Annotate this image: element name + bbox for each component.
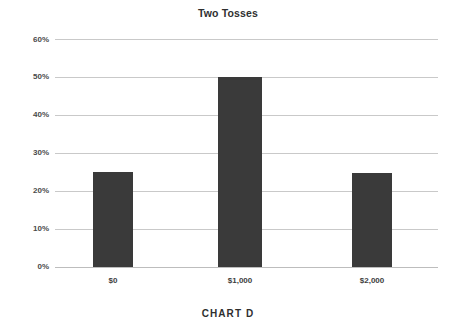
x-tick-label-0: $0: [109, 276, 118, 286]
x-axis: $0 $1,000 $2,000: [55, 276, 438, 290]
y-tick-label-30: 30%: [5, 148, 49, 157]
y-tick-label-60: 60%: [5, 35, 49, 44]
chart-figure: Two Tosses 60% 50% 40% 30% 20% 10% 0% $0…: [0, 0, 456, 333]
y-tick-label-40: 40%: [5, 110, 49, 119]
chart-title: Two Tosses: [0, 7, 456, 20]
gridline-baseline-0: [55, 267, 438, 268]
chart-caption: CHART D: [0, 308, 456, 320]
x-tick-label-1000: $1,000: [228, 276, 252, 286]
y-tick-label-0: 0%: [5, 262, 49, 271]
plot-area: [55, 39, 438, 267]
y-tick-label-20: 20%: [5, 186, 49, 195]
x-tick-label-2000: $2,000: [360, 276, 384, 286]
bar-0[interactable]: [93, 172, 133, 267]
y-tick-label-50: 50%: [5, 72, 49, 81]
y-tick-label-10: 10%: [5, 224, 49, 233]
y-axis: 60% 50% 40% 30% 20% 10% 0%: [0, 39, 49, 267]
gridline-60: [55, 39, 438, 40]
bar-1000[interactable]: [218, 77, 262, 267]
bar-2000[interactable]: [352, 173, 392, 267]
